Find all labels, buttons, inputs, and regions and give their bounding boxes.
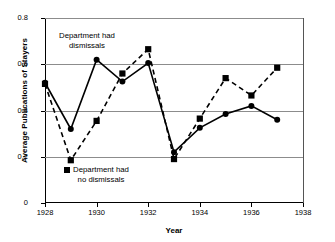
- annotation-dismissals-line1: Department had: [59, 31, 115, 41]
- annotation-no-dismissals-line2: no dismissals: [73, 175, 129, 185]
- data-point-marker: [68, 126, 74, 132]
- annotation-dismissals: Department had dismissals: [59, 31, 115, 50]
- y-axis-title: Average Publications of Stayers: [20, 21, 29, 181]
- data-point-marker: [171, 156, 177, 162]
- annotation-dismissals-line2: dismissals: [59, 41, 115, 51]
- data-point-marker: [274, 65, 280, 71]
- data-point-marker: [223, 111, 229, 117]
- data-point-marker: [274, 117, 280, 123]
- data-point-marker: [68, 157, 74, 163]
- data-point-marker: [248, 92, 254, 98]
- data-point-marker: [94, 57, 100, 63]
- data-point-marker: [248, 103, 254, 109]
- data-point-marker: [119, 79, 125, 85]
- annotation-no-dismissals-marker-icon: [64, 167, 70, 173]
- chart-container: 00.20.40.60.8 192819301932193419361938 A…: [0, 0, 335, 242]
- data-point-marker: [223, 75, 229, 81]
- x-axis-title: Year: [45, 226, 303, 235]
- series-layer: [0, 0, 335, 242]
- data-point-marker: [197, 115, 203, 121]
- annotation-no-dismissals: Department had no dismissals: [73, 165, 129, 184]
- data-point-marker: [42, 81, 48, 87]
- data-point-marker: [171, 149, 177, 155]
- data-point-marker: [145, 46, 151, 52]
- annotation-no-dismissals-line1: Department had: [73, 165, 129, 175]
- data-point-marker: [94, 118, 100, 124]
- data-point-marker: [197, 125, 203, 131]
- data-point-marker: [145, 60, 151, 66]
- data-point-marker: [119, 70, 125, 76]
